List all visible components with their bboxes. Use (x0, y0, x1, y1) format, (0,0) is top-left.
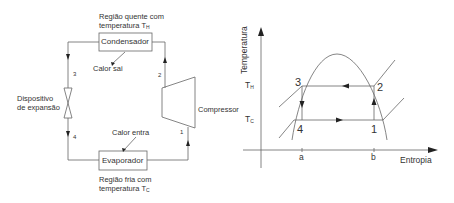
refrigeration-cycle-lines (68, 42, 188, 160)
state-2-label: 2 (158, 71, 161, 80)
state-4-label: 4 (73, 133, 76, 142)
x-axis-arrow (428, 147, 438, 153)
evaporator-label: Evaporador (102, 156, 143, 165)
flow-arrow-1 (186, 140, 190, 146)
diagram-canvas (0, 0, 454, 203)
point-1-label: 1 (371, 123, 377, 135)
flow-arrow-2 (163, 57, 167, 63)
expansion-valve-bottom (64, 103, 72, 118)
state-1-label: 1 (180, 128, 183, 137)
process-arrow-4-1 (336, 118, 343, 123)
point-3-label: 3 (295, 76, 301, 88)
x-tick-a: a (299, 153, 304, 162)
flow-arrow-4 (66, 131, 70, 137)
x-tick-b: b (371, 153, 376, 162)
flow-arrow-3 (66, 54, 70, 60)
heat-in-label: Calor entra (112, 128, 149, 137)
heat-out-label: Calor sai (93, 64, 123, 73)
cold-region-label: Região fria com temperatura TC (99, 175, 152, 195)
x-axis-label: Entropia (400, 156, 432, 165)
ts-diagram (243, 30, 432, 168)
y-axis-arrow (258, 27, 264, 36)
t-cold-label: TC (245, 115, 254, 126)
compressor-shape (162, 77, 195, 128)
state-3-label: 3 (73, 70, 76, 79)
t-hot-label: TH (245, 81, 254, 92)
expansion-valve-top (64, 88, 72, 103)
compressor-label: Compressor (198, 105, 239, 114)
process-arrow-2-3 (342, 84, 349, 89)
y-axis-label: Temperatura (240, 26, 249, 74)
expansion-device-label: Dispositivo de expansão (17, 94, 60, 112)
point-4-label: 4 (297, 123, 303, 135)
point-2-label: 2 (377, 81, 383, 93)
hot-region-label: Região quente com temperatura TH (99, 12, 164, 32)
condenser-label: Condensador (101, 37, 149, 46)
